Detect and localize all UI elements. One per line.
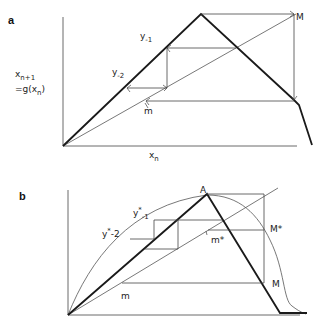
label-y-star-minus-2: y*-2 [102, 228, 120, 239]
label-M-star: M* [270, 225, 282, 234]
label-sub: -2 [117, 72, 124, 80]
label-sub: -1 [145, 36, 152, 44]
panel-a-graphics [63, 11, 312, 146]
panel-a-y-axis-label-line2: =g(xn) [15, 85, 45, 97]
panel-b-identity-line [68, 188, 278, 315]
label-y-star-minus-1: y*-1 [133, 207, 149, 221]
panel-a-letter: a [8, 14, 14, 26]
mstar-tick-mark [206, 231, 207, 235]
x-axis-label-sub: n [154, 155, 158, 163]
panel-a-y-axis-label-line1: xn+1 [15, 70, 35, 82]
y-axis-label-text: ) [42, 84, 46, 94]
label-A: A [200, 186, 206, 195]
y-axis-label-text: =g(x [15, 84, 37, 94]
panel-b-graphics [68, 188, 307, 315]
label-M-b: M [272, 280, 280, 289]
panel-a-x-axis-label: xn [149, 151, 159, 163]
arrow-icon [127, 85, 131, 92]
label-m-star: m* [211, 236, 224, 245]
label-M: M [296, 13, 304, 22]
panel-b-tent-map [68, 194, 307, 315]
diagram-canvas [0, 0, 322, 327]
panel-a-map-curve [63, 14, 312, 146]
label-m: m [144, 107, 153, 116]
y-axis-label-sub: n+1 [20, 74, 35, 82]
label-sub: -1 [142, 213, 149, 221]
panel-b-letter: b [19, 190, 26, 202]
label-y-minus-2: y-2 [112, 68, 124, 80]
label-y-minus-1: y-1 [140, 32, 152, 44]
label-sub: -2 [111, 229, 120, 239]
label-m-b: m [121, 292, 130, 301]
